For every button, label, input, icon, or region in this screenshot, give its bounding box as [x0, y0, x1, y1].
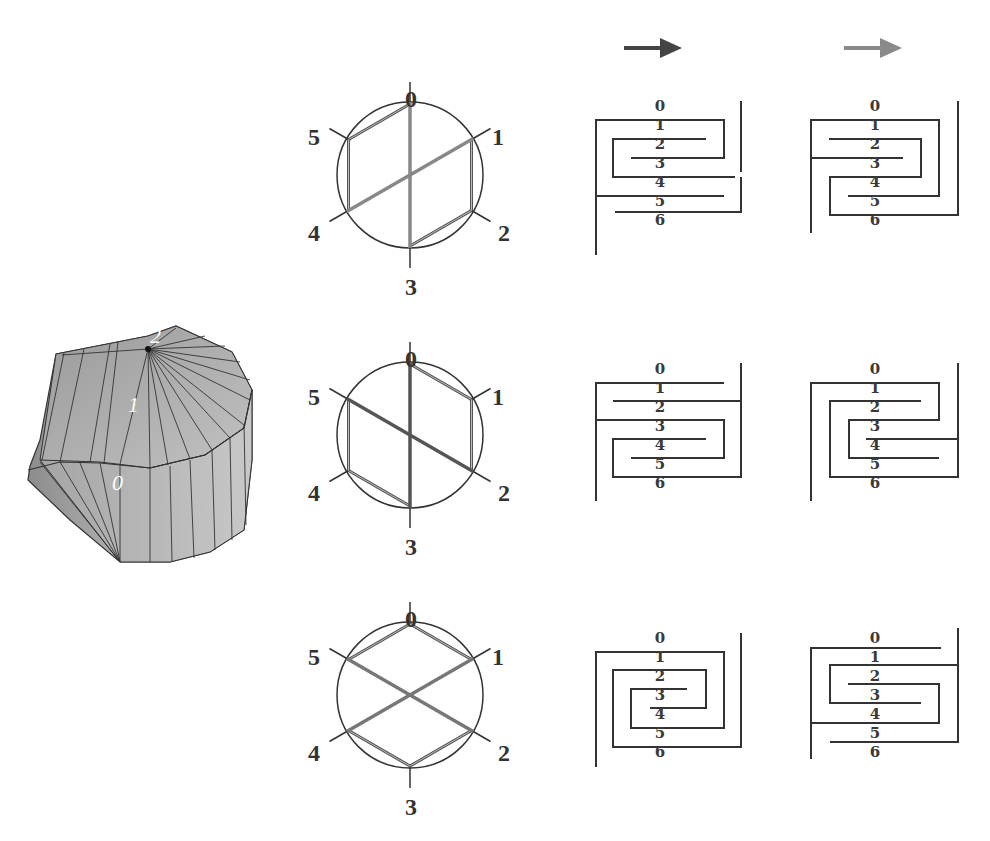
- meander-label-0: 0: [655, 97, 665, 115]
- vertex-label-5: 5: [308, 644, 320, 670]
- arrow-light-icon: [844, 38, 902, 58]
- meander-label-1: 1: [655, 379, 665, 397]
- meander-label-6: 6: [655, 743, 665, 761]
- meander-row1-right: [811, 101, 958, 233]
- meander-label-0: 0: [655, 629, 665, 647]
- vertex-label-5: 5: [308, 124, 320, 150]
- meander-label-1: 1: [655, 648, 665, 666]
- meander-label-1: 1: [870, 116, 880, 134]
- meander-label-6: 6: [655, 474, 665, 492]
- meander-label-5: 5: [870, 192, 880, 210]
- meander-label-6: 6: [655, 211, 665, 229]
- meander-row3-right: [811, 628, 958, 759]
- meander-label-5: 5: [870, 455, 880, 473]
- vertex-label-4: 4: [308, 480, 320, 506]
- polyhedral-solid: 2 1 0: [28, 323, 252, 562]
- meander-row1-left: [596, 101, 741, 255]
- meander-label-3: 3: [870, 686, 880, 704]
- vertex-label-2: 2: [498, 740, 510, 766]
- meander-label-1: 1: [655, 116, 665, 134]
- meander-label-4: 4: [655, 173, 665, 191]
- meander-label-0: 0: [870, 360, 880, 378]
- meander-label-6: 6: [870, 474, 880, 492]
- solid-label-1: 1: [128, 392, 139, 417]
- vertex-tick: [470, 210, 491, 222]
- meander-label-0: 0: [655, 360, 665, 378]
- vertex-tick: [329, 470, 350, 482]
- vertex-label-0: 0: [405, 606, 417, 632]
- meander-row2-right: [811, 363, 958, 501]
- arrow-dark-icon: [624, 38, 682, 58]
- meander-label-2: 2: [870, 667, 880, 685]
- vertex-label-4: 4: [308, 220, 320, 246]
- meander-label-4: 4: [870, 705, 880, 723]
- meander-label-3: 3: [655, 417, 665, 435]
- meander-label-6: 6: [870, 211, 880, 229]
- meander-label-4: 4: [655, 436, 665, 454]
- vertex-tick: [470, 389, 491, 401]
- vertex-label-1: 1: [492, 124, 504, 150]
- solid-label-2: 2: [150, 323, 161, 348]
- chord-diagram-row1: 012345: [308, 82, 510, 300]
- meander-diagrams: [596, 101, 958, 767]
- meander-label-2: 2: [655, 667, 665, 685]
- figure-canvas: 2 1 0 012345012345012345: [0, 0, 990, 841]
- vertex-label-4: 4: [308, 740, 320, 766]
- meander-label-4: 4: [655, 705, 665, 723]
- meander-label-2: 2: [870, 135, 880, 153]
- meander-row3-left: [596, 633, 741, 767]
- vertex-label-1: 1: [492, 644, 504, 670]
- meander-label-1: 1: [870, 648, 880, 666]
- meander-label-0: 0: [870, 97, 880, 115]
- vertex-label-2: 2: [498, 220, 510, 246]
- vertex-label-3: 3: [405, 274, 417, 300]
- meander-label-5: 5: [655, 455, 665, 473]
- meander-label-5: 5: [655, 724, 665, 742]
- vertex-label-3: 3: [405, 534, 417, 560]
- meander-label-2: 2: [870, 398, 880, 416]
- vertex-label-0: 0: [405, 346, 417, 372]
- meander-label-3: 3: [655, 154, 665, 172]
- meander-label-0: 0: [870, 629, 880, 647]
- meander-label-4: 4: [870, 436, 880, 454]
- chord-diagram-row2: 012345: [308, 342, 510, 560]
- solid-label-0: 0: [112, 470, 123, 495]
- meander-label-2: 2: [655, 135, 665, 153]
- chord-diagram-row3: 012345: [308, 602, 510, 820]
- meander-label-3: 3: [870, 417, 880, 435]
- vertex-label-5: 5: [308, 384, 320, 410]
- meander-row2-left: [596, 363, 741, 501]
- meander-label-5: 5: [655, 192, 665, 210]
- meander-label-2: 2: [655, 398, 665, 416]
- meander-label-3: 3: [655, 686, 665, 704]
- meander-label-6: 6: [870, 743, 880, 761]
- vertex-label-0: 0: [405, 86, 417, 112]
- meander-label-5: 5: [870, 724, 880, 742]
- chord-diagrams: 012345012345012345: [308, 82, 510, 820]
- vertex-label-1: 1: [492, 384, 504, 410]
- meander-label-3: 3: [870, 154, 880, 172]
- vertex-label-3: 3: [405, 794, 417, 820]
- vertex-tick: [329, 129, 350, 141]
- meander-label-4: 4: [870, 173, 880, 191]
- vertex-label-2: 2: [498, 480, 510, 506]
- meander-label-1: 1: [870, 379, 880, 397]
